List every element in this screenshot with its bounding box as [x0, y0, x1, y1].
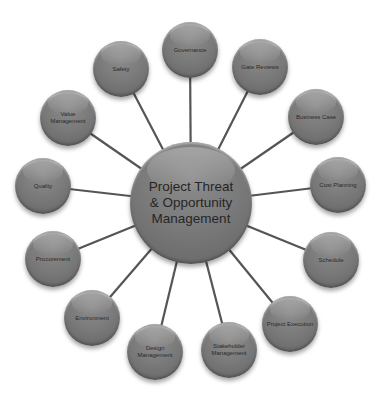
node-label: Business Case	[292, 114, 340, 121]
node-safety: Safety	[93, 41, 149, 97]
node-label: Design Management	[127, 345, 183, 359]
node-label: Gate Reviews	[237, 64, 282, 71]
node-label: Value Management	[40, 111, 96, 125]
node-label: Environment	[71, 315, 113, 322]
node-label: Cost Planning	[315, 182, 360, 189]
node-design-management: Design Management	[127, 324, 183, 380]
node-stakeholder-management: Stakeholder Management	[201, 322, 257, 378]
node-environment: Environment	[64, 290, 120, 346]
node-label: Project Execution	[263, 321, 318, 328]
center-label-line-2: & Opportunity	[150, 195, 233, 210]
node-project-execution: Project Execution	[262, 296, 318, 352]
center-node-label: Project Threat & Opportunity Management	[143, 179, 240, 227]
node-gate-reviews: Gate Reviews	[232, 39, 288, 95]
center-label-line-1: Project Threat	[149, 179, 234, 194]
node-business-case: Business Case	[288, 89, 344, 145]
center-node-project-threat-opportunity-management: Project Threat & Opportunity Management	[130, 142, 252, 264]
node-quality: Quality	[15, 158, 71, 214]
node-label: Safety	[108, 66, 133, 73]
node-cost-planning: Cost Planning	[310, 157, 366, 213]
node-label: Quality	[30, 183, 57, 190]
node-label: Schedule	[314, 257, 347, 264]
node-governance: Governance	[162, 22, 218, 78]
node-label: Procurement	[32, 256, 74, 263]
center-label-line-3: Management	[152, 211, 231, 226]
node-label: Governance	[170, 47, 211, 54]
hub-spoke-diagram: Project Threat & Opportunity Management …	[0, 0, 382, 400]
node-label: Stakeholder Management	[201, 343, 257, 357]
node-schedule: Schedule	[303, 232, 359, 288]
node-value-management: Value Management	[40, 90, 96, 146]
node-procurement: Procurement	[25, 231, 81, 287]
